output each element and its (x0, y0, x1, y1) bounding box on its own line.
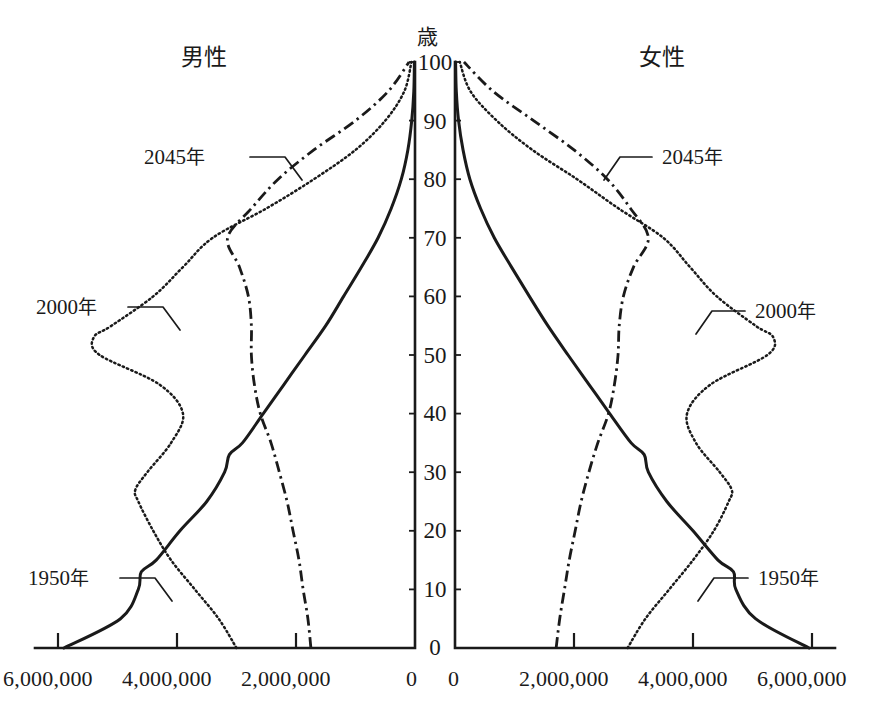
annotation-male-1950: 1950年 (28, 568, 89, 589)
age-tick-50: 50 (410, 344, 460, 367)
female-axis (455, 62, 835, 648)
female-x-tick-2000000: 2,000,000 (519, 668, 609, 690)
leader-female-2000 (696, 311, 745, 334)
annotation-female-1950-suffix: 年 (800, 567, 819, 589)
age-tick-0: 0 (410, 636, 460, 659)
annotation-male-2000-year: 2000 (36, 295, 78, 319)
male-axis (35, 62, 415, 648)
leader-male-2045 (250, 157, 302, 180)
male-x-tick-0: 0 (406, 668, 417, 690)
female-x-tick-6000000: 6,000,000 (757, 668, 847, 690)
age-tick-20: 20 (410, 519, 460, 542)
male-x-tick-6000000: 6,000,000 (3, 668, 93, 690)
annotation-male-2045-year: 2045 (144, 145, 186, 169)
age-unit-label: 歳 (417, 27, 438, 48)
female-x-tick-4000000: 4,000,000 (638, 668, 728, 690)
curve-male-2045 (227, 62, 409, 648)
male-x-tick-2000000: 2,000,000 (241, 668, 331, 690)
annotation-female-2045: 2045年 (662, 147, 723, 168)
age-tick-30: 30 (410, 461, 460, 484)
annotation-male-2000-suffix: 年 (78, 296, 97, 318)
population-pyramid-figure: 歳 男性 女性 100 90 80 70 60 50 40 30 20 10 0… (0, 0, 870, 723)
age-tick-70: 70 (410, 227, 460, 250)
female-heading: 女性 (639, 46, 685, 69)
annotation-male-2000: 2000年 (36, 297, 97, 318)
curve-female-1950 (456, 62, 809, 648)
leader-male-1950 (120, 578, 172, 601)
annotation-female-2000: 2000年 (755, 301, 816, 322)
male-heading: 男性 (181, 46, 227, 69)
female-x-ticks (574, 633, 812, 648)
age-tick-80: 80 (410, 168, 460, 191)
annotation-male-2045-suffix: 年 (186, 146, 205, 168)
annotation-male-2045: 2045年 (144, 147, 205, 168)
annotation-female-2000-year: 2000 (755, 299, 797, 323)
age-tick-90: 90 (410, 110, 460, 133)
age-tick-100: 100 (410, 51, 460, 74)
male-x-tick-4000000: 4,000,000 (122, 668, 212, 690)
annotation-female-1950: 1950年 (758, 568, 819, 589)
age-tick-40: 40 (410, 402, 460, 425)
annotation-female-2045-year: 2045 (662, 145, 704, 169)
annotation-male-1950-year: 1950 (28, 566, 70, 590)
age-tick-60: 60 (410, 285, 460, 308)
female-x-tick-0: 0 (448, 668, 459, 690)
annotation-male-1950-suffix: 年 (70, 567, 89, 589)
leader-female-2045 (604, 157, 652, 180)
curve-male-1950 (64, 62, 414, 648)
annotation-female-1950-year: 1950 (758, 566, 800, 590)
curve-female-2045 (464, 62, 648, 648)
annotation-female-2000-suffix: 年 (797, 300, 816, 322)
annotation-female-2045-suffix: 年 (704, 146, 723, 168)
age-tick-10: 10 (410, 578, 460, 601)
